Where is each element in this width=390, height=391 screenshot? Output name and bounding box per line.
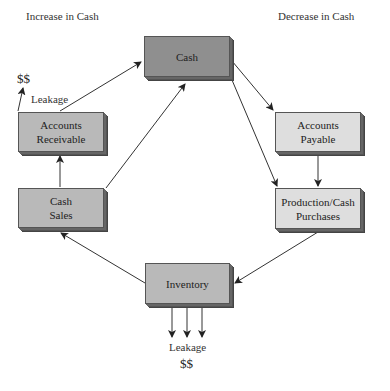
arrow-ar-to-cash [60,62,141,111]
node-cash: Cash [144,36,230,77]
leakage-bottom-money: $$ [180,356,193,372]
node-cash-sales-line2: Sales [49,208,72,222]
arrow-inventory-to-cashsales [61,233,145,283]
node-production-cash-purchases: Production/Cash Purchases [275,188,361,229]
node-cash-sales: Cash Sales [18,188,104,228]
arrow-production-to-inventory [235,232,318,283]
arrow-ar-leakage [18,88,23,111]
leakage-top-money: $$ [17,71,30,87]
arrow-cashsales-to-cash [106,84,185,188]
arrow-cash-to-ap [232,61,273,110]
leakage-top-label: Leakage [31,93,68,105]
node-ar-label-line1: Accounts [40,118,82,132]
node-ar-label-line2: Receivable [37,132,86,146]
node-cash-label: Cash [176,50,198,64]
node-ap-label-line1: Accounts [297,118,339,132]
node-production-line2: Purchases [296,209,340,223]
node-production-line1: Production/Cash [281,195,354,209]
leakage-bottom-label: Leakage [169,341,206,353]
node-ap-label-line2: Payable [301,132,336,146]
node-accounts-receivable: Accounts Receivable [18,112,104,152]
node-cash-sales-line1: Cash [50,194,72,208]
arrow-cash-to-production [232,80,277,186]
node-inventory-label: Inventory [166,277,209,291]
node-inventory: Inventory [145,263,230,304]
node-accounts-payable: Accounts Payable [275,112,361,152]
